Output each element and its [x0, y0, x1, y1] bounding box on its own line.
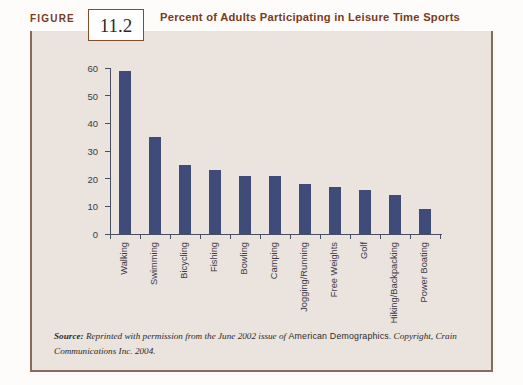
y-tick-mark — [105, 151, 110, 152]
bar — [119, 71, 131, 234]
chart-area: 0102030405060 WalkingSwimmingBicyclingFi… — [32, 31, 491, 331]
x-axis-tick-label: Camping — [270, 242, 279, 279]
x-tick-mark — [290, 234, 291, 239]
x-tick-mark — [380, 234, 381, 239]
y-tick-mark — [105, 68, 110, 69]
x-tick-mark — [200, 234, 201, 239]
x-tick-mark — [350, 234, 351, 239]
y-tick-mark — [105, 178, 110, 179]
bar — [149, 137, 161, 234]
bar — [329, 187, 341, 234]
x-axis-tick-label: Swimming — [150, 242, 159, 285]
source-note: Source: Reprinted with permission from t… — [54, 329, 468, 358]
bar — [269, 176, 281, 234]
x-tick-mark — [230, 234, 231, 239]
source-text-before: Reprinted with permission from the June … — [86, 331, 286, 341]
y-axis-tick-label: 40 — [32, 118, 98, 129]
y-tick-mark — [105, 123, 110, 124]
x-tick-mark — [440, 234, 441, 239]
x-tick-mark — [140, 234, 141, 239]
x-axis-tick-label: Bowling — [240, 242, 249, 275]
figure-number-box: 11.2 — [88, 9, 144, 41]
source-prefix: Source: — [54, 331, 84, 341]
x-axis-tick-label: Walking — [120, 242, 129, 275]
figure-number: 11.2 — [100, 16, 133, 35]
x-axis-line — [110, 234, 442, 235]
y-axis-tick-label: 60 — [32, 63, 98, 74]
figure-title: Percent of Adults Participating in Leisu… — [160, 11, 460, 23]
figure-label: FIGURE — [30, 13, 75, 24]
bar — [239, 176, 251, 234]
x-tick-mark — [170, 234, 171, 239]
x-axis-tick-label: Golf — [360, 242, 369, 259]
x-axis-tick-label: Power Boating — [420, 242, 429, 302]
figure-root: FIGURE 11.2 Percent of Adults Participat… — [0, 0, 523, 385]
x-tick-mark — [110, 234, 111, 239]
x-tick-mark — [260, 234, 261, 239]
y-axis-tick-label: 10 — [32, 201, 98, 212]
y-tick-mark — [105, 206, 110, 207]
x-axis-tick-label: Fishing — [210, 242, 219, 272]
bar — [209, 170, 221, 234]
bar — [419, 209, 431, 234]
source-publication: American Demographics — [288, 331, 389, 341]
y-axis-tick-label: 30 — [32, 146, 98, 157]
x-tick-mark — [410, 234, 411, 239]
x-axis-tick-label: Hiking/Backpacking — [390, 242, 399, 323]
x-axis-tick-label: Free Weights — [330, 242, 339, 297]
figure-panel: 0102030405060 WalkingSwimmingBicyclingFi… — [30, 31, 493, 372]
bar — [299, 184, 311, 234]
y-axis-tick-label: 0 — [32, 229, 98, 240]
x-axis-tick-label: Bicycling — [180, 242, 189, 279]
plot-region — [110, 68, 440, 234]
x-axis-tick-label: Jogging/Running — [300, 242, 309, 312]
y-tick-mark — [105, 95, 110, 96]
bar — [359, 190, 371, 234]
bar — [179, 165, 191, 234]
y-axis-tick-label: 50 — [32, 90, 98, 101]
y-axis-tick-label: 20 — [32, 173, 98, 184]
x-tick-mark — [320, 234, 321, 239]
bar — [389, 195, 401, 234]
